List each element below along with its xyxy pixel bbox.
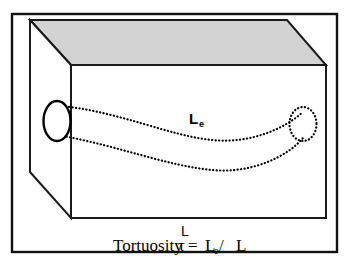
caption-denominator: L [236,236,246,255]
block-top-face [30,20,326,65]
block-front-face [71,65,326,218]
effective-length-subscript: e [199,119,204,129]
caption-equals: = [188,236,198,255]
caption-divider: / [219,236,224,255]
tortuosity-figure: L e L Tortuosity τ = L e / L [0,0,353,268]
pore-inlet-opening [44,101,71,141]
caption-tau-symbol: τ [178,236,185,255]
effective-length-symbol: L [189,110,198,127]
figure-canvas: L e L Tortuosity τ = L e / L [0,0,353,268]
caption-prefix: Tortuosity [113,236,183,255]
